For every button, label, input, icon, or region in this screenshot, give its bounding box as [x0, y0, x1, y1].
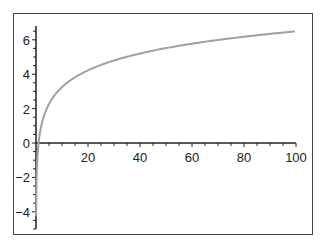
- y-tick-label: 6: [23, 33, 30, 48]
- y-tick-label: 0: [23, 136, 30, 151]
- y-tick-label: 2: [23, 102, 30, 117]
- x-tick-label: 60: [185, 150, 199, 165]
- x-tick-label: 40: [133, 150, 147, 165]
- y-tick-label: −4: [15, 205, 30, 220]
- line-chart: −4−2024620406080100: [0, 0, 322, 247]
- x-tick-label: 80: [237, 150, 251, 165]
- x-tick-label: 20: [81, 150, 95, 165]
- y-tick-label: 4: [23, 67, 30, 82]
- x-tick-label: 100: [285, 150, 307, 165]
- y-tick-label: −2: [15, 170, 30, 185]
- plot-frame: [14, 14, 313, 235]
